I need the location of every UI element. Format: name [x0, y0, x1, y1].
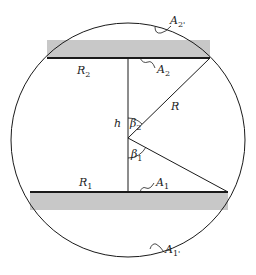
label-beta2: β2: [129, 117, 141, 132]
label-R: R: [170, 100, 179, 113]
bottom-plate: [30, 192, 228, 210]
label-A2: A2: [156, 63, 170, 78]
label-h: h: [114, 117, 121, 130]
label-A1: A1: [155, 176, 169, 191]
top-plate: [47, 40, 210, 58]
A2-leader: [140, 58, 155, 68]
label-beta1: β1: [130, 148, 142, 163]
label-A2prime: A2': [169, 14, 185, 29]
label-A1prime: A1': [164, 243, 180, 258]
A1-leader: [140, 183, 154, 192]
radius-line-bottom: [128, 138, 228, 192]
label-R1: R1: [78, 176, 92, 191]
A1prime-leader: [150, 244, 164, 252]
sphere-zone-diagram: R2 A2 A2' R h β2 β1 R1 A1 A1': [0, 0, 256, 275]
label-R2: R2: [76, 64, 90, 79]
